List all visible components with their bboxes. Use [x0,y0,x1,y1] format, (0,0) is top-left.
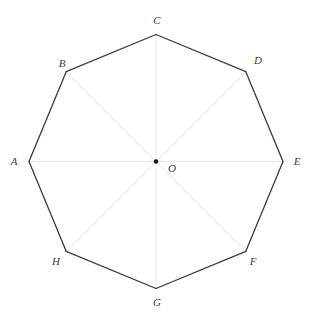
edge-FG [156,251,246,288]
edge-DE [246,72,283,162]
vertex-label-F: F [250,256,257,267]
edge-GH [66,251,156,288]
vertex-label-B: B [59,58,66,69]
vertex-label-A: A [11,156,18,167]
edge-CD [156,35,246,72]
edge-AB [29,72,66,162]
center-point-dot [154,159,158,163]
edge-EF [246,162,283,252]
edge-BC [66,35,156,72]
vertex-label-G: G [153,297,161,308]
vertex-label-E: E [294,156,301,167]
edge-HA [29,162,66,252]
vertex-label-H: H [52,256,60,267]
vertex-label-D: D [254,55,262,66]
octagon-drawing [0,0,311,324]
center-label-O: O [168,162,176,173]
octagon-figure: ABCDEFGH O [0,0,311,324]
vertex-label-C: C [153,15,160,26]
